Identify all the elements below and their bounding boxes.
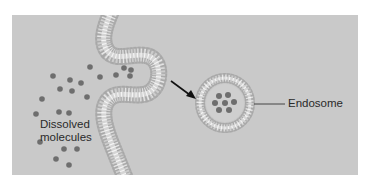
molecule-dot [50,73,56,79]
molecule-dot [57,86,63,92]
molecule-dot [128,67,134,73]
molecule-dot [97,74,103,80]
molecule-dot [113,72,119,78]
molecule-dot [121,65,127,71]
dissolved-molecules-label: Dissolved molecules [40,118,110,144]
molecule-dot [84,94,90,100]
molecule-dot [225,92,231,98]
molecule-dot [66,162,72,168]
molecule-dot [222,100,228,106]
molecule-dot [78,80,84,86]
endocytosis-figure [0,0,370,185]
molecule-dot [53,156,59,162]
molecule-dot [87,64,93,70]
molecule-dot [74,146,80,152]
label-line-1: Dissolved [40,118,110,131]
molecule-dot [66,110,72,116]
molecule-dot [231,99,237,105]
molecule-dot [67,77,73,83]
molecule-dot [216,93,222,99]
molecule-dot [39,96,45,102]
arrow-icon [171,81,196,99]
molecule-dot [61,146,67,152]
molecule-dot [216,107,222,113]
molecule-dot [56,109,62,115]
molecule-dot [127,73,133,79]
molecule-dot [212,100,218,106]
plasma-membrane [104,10,159,185]
endosome-label: Endosome [288,97,343,110]
label-line-2: molecules [40,131,110,144]
molecule-dot [226,107,232,113]
molecule-dot [69,88,75,94]
molecule-dot [33,111,39,117]
